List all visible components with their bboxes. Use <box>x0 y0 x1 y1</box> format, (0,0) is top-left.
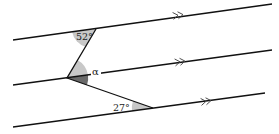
parallel-lines-diagram: 52° α 27° <box>0 0 279 134</box>
angle-52-label: 52° <box>76 31 93 42</box>
parallel-line-2 <box>13 50 272 85</box>
parallel-line-3 <box>13 93 265 127</box>
double-arrow-icon <box>175 58 186 66</box>
parallel-line-1 <box>13 4 272 40</box>
angle-alpha-label: α <box>92 66 99 77</box>
angle-27-label: 27° <box>113 102 130 113</box>
